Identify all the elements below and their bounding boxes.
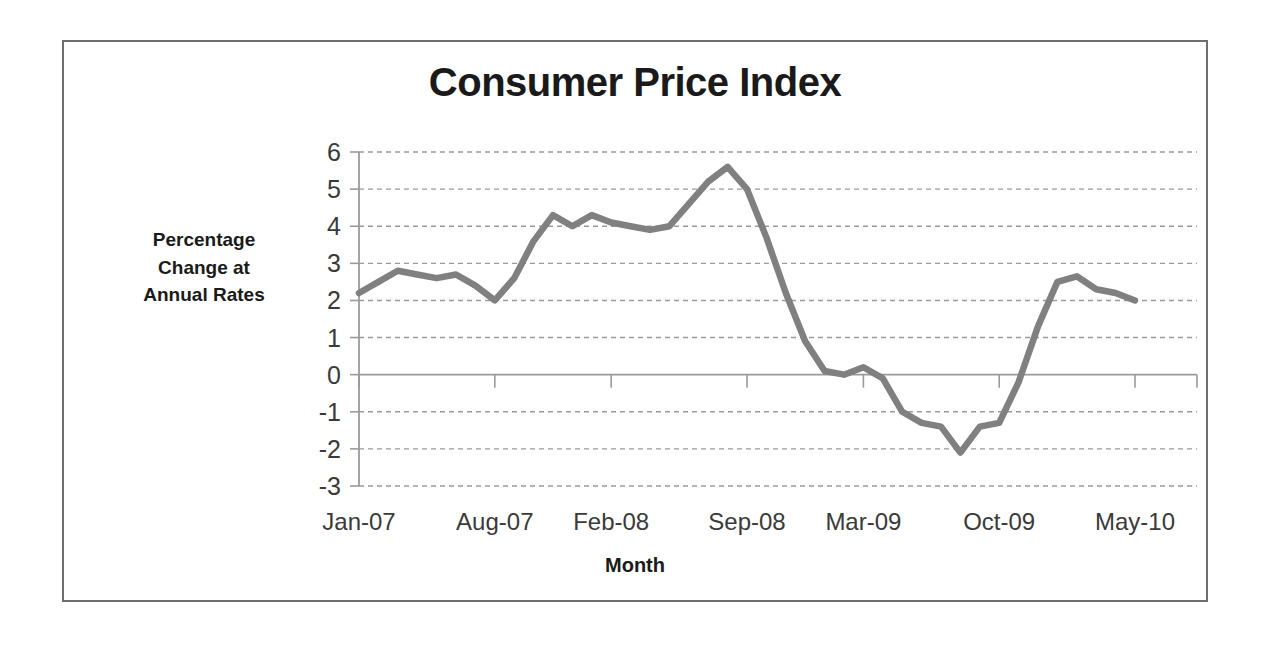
y-tick-label: 3	[327, 249, 341, 277]
x-tick-label: Aug-07	[456, 508, 533, 535]
x-tick-label: Sep-08	[708, 508, 785, 535]
x-tick-label: Jan-07	[322, 508, 395, 535]
cpi-data-line	[359, 167, 1135, 453]
x-tick-label: Oct-09	[963, 508, 1035, 535]
x-tick-label: Mar-09	[825, 508, 901, 535]
chart-figure-frame: Consumer Price Index Percentage Change a…	[62, 40, 1208, 602]
x-tick-label: May-10	[1095, 508, 1175, 535]
y-tick-label: -2	[319, 435, 341, 463]
plot-area: 6543210-1-2-3 Jan-07Aug-07Feb-08Sep-08Ma…	[64, 42, 1210, 604]
y-tick-label: 0	[327, 361, 341, 389]
y-tick-label: -3	[319, 472, 341, 500]
gridlines-group	[359, 152, 1197, 486]
y-tick-label: 4	[327, 212, 341, 240]
y-tick-label: 6	[327, 138, 341, 166]
y-tick-label: 1	[327, 324, 341, 352]
x-tick-labels-group: Jan-07Aug-07Feb-08Sep-08Mar-09Oct-09May-…	[322, 508, 1175, 535]
axis-group	[350, 152, 1197, 486]
x-tick-marks-group	[359, 375, 1197, 388]
y-tick-label: -1	[319, 398, 341, 426]
x-tick-label: Feb-08	[573, 508, 649, 535]
y-tick-label: 2	[327, 286, 341, 314]
y-tick-label: 5	[327, 175, 341, 203]
y-tick-labels-group: 6543210-1-2-3	[319, 138, 341, 500]
x-axis-title: Month	[64, 554, 1206, 577]
